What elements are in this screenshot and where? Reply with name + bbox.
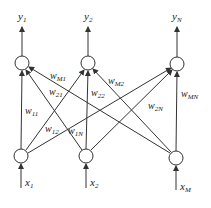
output-node-yN (170, 57, 184, 71)
output-labels: y1 y2 yN (17, 10, 182, 24)
label-wMN: wMN (181, 88, 199, 101)
output-nodes (15, 56, 184, 71)
weight-labels: w11 w12 w1N w21 w22 w2N wM1 wM2 wMN (25, 70, 199, 138)
input-node-xM (169, 151, 183, 165)
output-node-y1 (15, 56, 29, 70)
neural-network-diagram: y1 y2 yN x1 x2 xM w11 w12 w1N w21 w22 w2… (0, 0, 211, 208)
input-node-x2 (79, 149, 93, 163)
label-y1: y1 (17, 10, 26, 24)
label-w21: w21 (49, 86, 63, 99)
edge-w11 (21, 71, 22, 149)
input-node-x1 (14, 149, 28, 163)
edge-w22 (86, 71, 88, 149)
label-w12: w12 (45, 123, 59, 136)
label-y2: y2 (83, 10, 93, 24)
output-node-y2 (81, 56, 95, 70)
label-xM: xM (179, 180, 192, 194)
label-x2: x2 (89, 176, 99, 190)
diagram-svg: y1 y2 yN x1 x2 xM w11 w12 w1N w21 w22 w2… (0, 0, 211, 208)
label-wM2: wM2 (108, 75, 125, 88)
edge-wMN (176, 72, 177, 151)
label-x1: x1 (24, 176, 33, 190)
label-w22: w22 (91, 87, 105, 100)
label-w1N: w1N (68, 125, 83, 138)
input-labels: x1 x2 xM (24, 176, 192, 194)
input-arrows (21, 164, 176, 190)
input-nodes (14, 149, 183, 165)
output-arrows (22, 27, 177, 57)
label-w2N: w2N (148, 100, 163, 113)
label-yN: yN (171, 10, 182, 24)
label-w11: w11 (25, 105, 38, 118)
